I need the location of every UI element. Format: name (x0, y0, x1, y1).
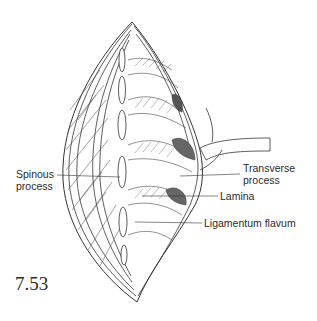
label-transverse-process: Transverse process (243, 162, 295, 186)
leader-ligamentum (135, 222, 202, 223)
leader-transverse (180, 174, 240, 176)
figure-number: 7.53 (15, 273, 48, 295)
incision-outline (63, 22, 203, 302)
label-lamina: Lamina (220, 190, 254, 202)
label-spinous-process: Spinous process (16, 168, 54, 192)
label-ligamentum-flavum: Ligamentum flavum (204, 217, 296, 229)
leader-spinous (57, 175, 120, 177)
